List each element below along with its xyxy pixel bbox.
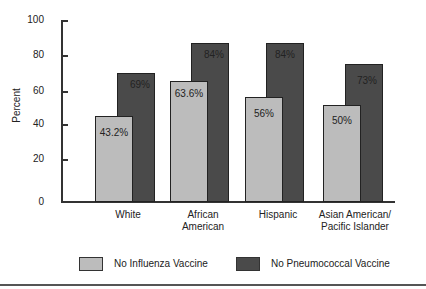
bar-value-label: 56% (246, 108, 282, 119)
bar-value-label: 84% (267, 49, 303, 60)
legend: No Influenza Vaccine No Pneumococcal Vac… (0, 257, 426, 277)
y-tick-mark (61, 124, 68, 126)
y-tick-mark (61, 20, 68, 22)
y-tick-mark (61, 159, 68, 161)
bar-value-label: 73% (352, 75, 382, 86)
x-category-label: Asian American/ Pacific Islander (300, 209, 410, 233)
category-line: White (100, 209, 156, 221)
x-category-label: African American (170, 209, 236, 233)
category-line: Hispanic (248, 209, 308, 221)
bar-asian-american-pacific-islander-influenza: 50% (323, 105, 361, 202)
bar-white-influenza: 43.2% (95, 116, 133, 202)
y-tick-label: 0 (20, 196, 44, 207)
y-tick-label: 80 (20, 49, 44, 60)
category-line: American (170, 221, 236, 233)
legend-swatch-influenza (79, 257, 103, 271)
bar-value-label: 63.6% (171, 88, 207, 99)
legend-label: No Influenza Vaccine (114, 258, 208, 269)
legend-swatch-pneumococcal (236, 257, 260, 271)
divider-line (0, 284, 426, 286)
y-axis-line (61, 20, 63, 202)
bar-african-american-influenza: 63.6% (170, 81, 208, 202)
category-line: Asian American/ (300, 209, 410, 221)
bar-value-label: 43.2% (96, 127, 132, 138)
bar-chart: Percent 0 20 40 60 80 100 69% 43.2% 84% … (0, 0, 426, 289)
y-tick-label: 60 (20, 85, 44, 96)
bar-hispanic-influenza: 56% (245, 97, 283, 202)
y-tick-label: 100 (20, 14, 44, 25)
x-category-label: Hispanic (248, 209, 308, 221)
y-tick-mark (61, 55, 68, 57)
bar-value-label: 69% (126, 79, 154, 90)
legend-label: No Pneumococcal Vaccine (271, 258, 390, 269)
y-tick-label: 40 (20, 118, 44, 129)
category-line: African (170, 209, 236, 221)
y-tick-mark (61, 91, 68, 93)
x-category-label: White (100, 209, 156, 221)
bar-value-label: 84% (200, 49, 228, 60)
bar-value-label: 50% (324, 115, 360, 126)
category-line: Pacific Islander (300, 221, 410, 233)
y-tick-label: 20 (20, 153, 44, 164)
